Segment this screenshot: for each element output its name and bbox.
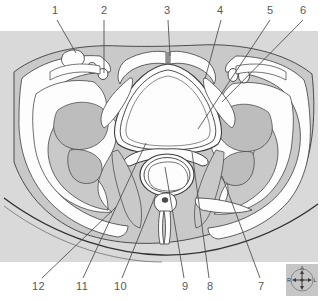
urethra-lumen: [162, 198, 168, 203]
anatomical-figure: A R L 1 2 3 4 5 6 12 11 10 9 8 7: [0, 0, 322, 301]
label-number-3[interactable]: 3: [164, 5, 171, 16]
compass-label-right: R: [287, 277, 291, 283]
label-number-10[interactable]: 10: [114, 281, 127, 292]
label-number-11[interactable]: 11: [76, 281, 88, 292]
label-number-7[interactable]: 7: [258, 281, 265, 292]
compass-label-anterior: A: [300, 265, 304, 271]
label-number-8[interactable]: 8: [207, 281, 214, 292]
compass-center-dot: [300, 278, 303, 281]
label-number-9[interactable]: 9: [182, 281, 189, 292]
label-number-12[interactable]: 12: [32, 281, 45, 292]
label-number-5[interactable]: 5: [267, 5, 274, 16]
label-number-2[interactable]: 2: [101, 5, 108, 16]
cross-section-svg: A R L: [0, 0, 322, 301]
label-number-6[interactable]: 6: [300, 5, 307, 16]
bone-femoral-head-right: [54, 102, 109, 149]
compass-label-left: L: [313, 277, 316, 283]
label-number-4[interactable]: 4: [217, 5, 224, 16]
perineal-body: [154, 193, 176, 213]
orientation-compass: A R L: [286, 264, 318, 296]
label-number-1[interactable]: 1: [52, 5, 59, 16]
